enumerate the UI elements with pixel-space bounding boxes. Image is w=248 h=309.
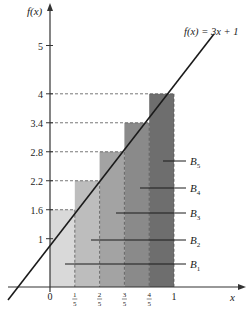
block-label: B1 — [190, 258, 201, 273]
x-tick-label: 0 — [48, 291, 53, 302]
block-label: B2 — [190, 234, 201, 249]
y-tick-label: 4 — [38, 89, 43, 100]
y-tick-label: 2.8 — [31, 147, 44, 158]
y-axis-arrow-icon — [47, 3, 53, 11]
y-axis-label: f(x) — [27, 5, 43, 18]
x-axis-arrow-icon — [238, 284, 246, 290]
x-tick-numerator: 4 — [147, 291, 151, 299]
function-label: f(x) = 3x + 1 — [184, 26, 238, 38]
x-tick-denominator: 5 — [123, 300, 127, 308]
x-tick-denominator: 5 — [147, 300, 151, 308]
x-tick-numerator: 2 — [98, 291, 102, 299]
y-tick-label: 1.6 — [31, 205, 44, 216]
x-axis-label: x — [229, 291, 235, 303]
block-label: B3 — [190, 207, 201, 222]
x-tick-numerator: 3 — [123, 291, 127, 299]
y-tick-label: 1 — [38, 234, 43, 245]
x-tick-denominator: 5 — [98, 300, 102, 308]
riemann-sum-diagram: 11.62.22.83.445 0152535451 B1B2B3B4B5 f(… — [0, 0, 248, 309]
y-tick-label: 5 — [38, 41, 43, 52]
block-b3 — [100, 152, 125, 287]
block-b4 — [124, 123, 149, 287]
x-ticks: 0152535451 — [48, 291, 177, 308]
block-label: B5 — [190, 155, 201, 170]
y-tick-label: 3.4 — [31, 118, 44, 129]
block-b1 — [50, 210, 75, 287]
block-b5 — [149, 94, 174, 287]
x-tick-denominator: 5 — [73, 300, 77, 308]
y-tick-label: 2.2 — [31, 176, 44, 187]
block-label: B4 — [190, 182, 201, 197]
x-tick-numerator: 1 — [73, 291, 77, 299]
x-tick-label: 1 — [172, 291, 177, 302]
